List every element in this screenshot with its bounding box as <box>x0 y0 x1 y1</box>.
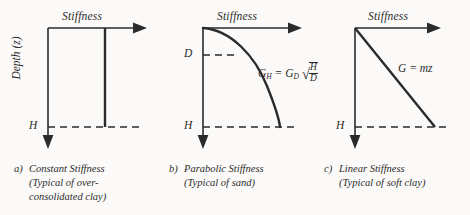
equation-equals-sign: = <box>275 67 283 79</box>
stiffness-axis-arrowhead-c <box>427 23 441 34</box>
h-marker-label-b: H <box>184 119 192 131</box>
caption-spacer-a1 <box>14 176 29 190</box>
panel-linear-stiffness: Stiffness H G = mz c) Linear Stiffness (… <box>310 0 465 215</box>
plot-svg-c <box>310 0 470 160</box>
caption-title-c: Linear Stiffness <box>339 162 465 176</box>
caption-title-a: Constant Stiffness <box>29 162 155 176</box>
caption-c: c) Linear Stiffness (Typical of soft cla… <box>310 162 465 190</box>
equation-rhs-subscript: D <box>294 72 299 81</box>
caption-spacer-a2 <box>14 190 29 204</box>
plot-area-a: Stiffness Depth (z) H <box>0 0 155 160</box>
depth-axis-arrowhead-c <box>350 135 361 149</box>
caption-letter-a: a) <box>14 162 29 176</box>
d-marker-label-b: D <box>184 47 192 59</box>
linear-stiffness-profile <box>355 28 435 127</box>
caption-a: a) Constant Stiffness (Typical of over- … <box>0 162 155 204</box>
stiffness-axis-title-b: Stiffness <box>217 10 257 22</box>
caption-spacer-c1 <box>324 176 339 190</box>
caption-b: b) Parabolic Stiffness (Typical of sand) <box>155 162 310 190</box>
plot-svg-a <box>0 0 155 160</box>
caption-title-b: Parabolic Stiffness <box>184 162 310 176</box>
parabolic-equation: GH = GD √HD <box>258 62 318 83</box>
depth-axis-arrowhead-a <box>43 135 54 149</box>
h-marker-label-c: H <box>336 119 344 131</box>
caption-letter-b: b) <box>169 162 184 176</box>
equation-lhs-subscript: H <box>266 72 271 81</box>
stiffness-axis-title-c: Stiffness <box>368 10 408 22</box>
stiffness-profiles-figure: Stiffness Depth (z) H a) Constant Stiffn… <box>0 0 470 215</box>
panel-parabolic-stiffness: Stiffness D H GH = GD √HD b) Parabolic S… <box>155 0 310 215</box>
depth-axis-arrowhead-b <box>198 135 209 149</box>
depth-axis-title-a: Depth (z) <box>10 23 22 93</box>
stiffness-axis-arrowhead-b <box>288 23 302 34</box>
stiffness-axis-title-a: Stiffness <box>62 10 102 22</box>
linear-equation: G = mz <box>398 62 433 74</box>
caption-sub-a2: consolidated clay) <box>29 190 155 204</box>
caption-sub-a1: (Typical of over- <box>29 176 155 190</box>
plot-area-b: Stiffness D H GH = GD √HD <box>155 0 310 160</box>
stiffness-axis-arrowhead-a <box>133 23 147 34</box>
equation-rhs-symbol: G <box>285 67 293 79</box>
panel-constant-stiffness: Stiffness Depth (z) H a) Constant Stiffn… <box>0 0 155 215</box>
h-marker-label-a: H <box>29 119 37 131</box>
caption-letter-c: c) <box>324 162 339 176</box>
caption-spacer-b1 <box>169 176 184 190</box>
plot-area-c: Stiffness H G = mz <box>310 0 465 160</box>
caption-sub-c1: (Typical of soft clay) <box>339 176 465 190</box>
caption-sub-b1: (Typical of sand) <box>184 176 310 190</box>
